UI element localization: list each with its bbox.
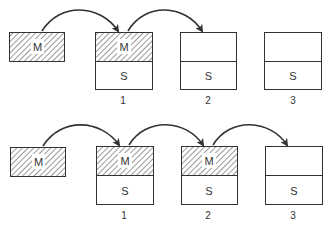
slot-2: M S 2 [182,147,238,222]
source-block: M [10,33,65,62]
arrow-1-to-2 [128,10,202,31]
slot-2: S 2 [181,33,237,107]
source-label: M [34,156,43,168]
arrow-1-to-2 [129,125,203,145]
slot-3: S 3 [266,147,323,222]
row-1: M M S 1 S 2 S 3 [10,10,322,106]
slot-number: 3 [290,210,296,221]
arrow-source-to-1 [43,125,119,146]
slot-bottom-label: S [289,70,296,82]
slot-bottom-label: S [121,185,128,197]
slot-bottom-label: S [205,70,212,82]
slot-top-label: M [119,41,128,53]
source-label: M [33,41,42,53]
source-block: M [11,148,66,177]
slot-number: 3 [290,95,296,106]
arrow-2-to-3 [213,125,287,145]
row-2: M M S 1 M S 2 S 3 [11,125,323,221]
slot-number: 2 [205,95,211,106]
slot-bottom-label: S [205,185,212,197]
diagram-canvas: M M S 1 S 2 S 3 [0,0,331,229]
slot-1: M S 1 [96,33,153,107]
slot-bottom-label: S [120,70,127,82]
slot-3: S 3 [265,33,322,107]
slot-number: 2 [205,210,211,221]
slot-top-label: M [120,155,129,167]
slot-top-label: M [204,155,213,167]
slot-number: 1 [120,95,126,106]
slot-bottom-label: S [290,185,297,197]
slot-number: 1 [121,210,127,221]
arrow-source-to-1 [42,10,118,31]
slot-1: M S 1 [97,147,154,222]
